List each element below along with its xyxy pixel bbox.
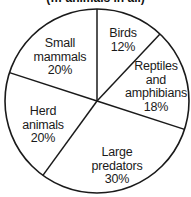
label-percent: 20% (34, 64, 87, 78)
label-text: Birds (109, 27, 136, 41)
slice-label-reptiles-amphibians: Reptiles and amphibians 18% (125, 60, 187, 114)
label-percent: 20% (22, 132, 64, 146)
label-text: Herd (22, 105, 64, 119)
slice-label-large-predators: Large predators 30% (91, 146, 142, 187)
slice-label-small-mammals: Small mammals 20% (34, 37, 87, 78)
label-text: amphibians (125, 87, 187, 101)
label-text: and (125, 74, 187, 88)
label-text: Small (34, 37, 87, 51)
label-text: Large (91, 146, 142, 160)
label-text: predators (91, 159, 142, 173)
label-percent: 18% (125, 101, 187, 115)
label-percent: 12% (109, 40, 136, 54)
label-text: mammals (34, 50, 87, 64)
label-percent: 30% (91, 173, 142, 187)
slice-label-birds: Birds 12% (109, 27, 136, 54)
label-text: Reptiles (125, 60, 187, 74)
label-text: animals (22, 118, 64, 132)
slice-label-herd-animals: Herd animals 20% (22, 105, 64, 146)
